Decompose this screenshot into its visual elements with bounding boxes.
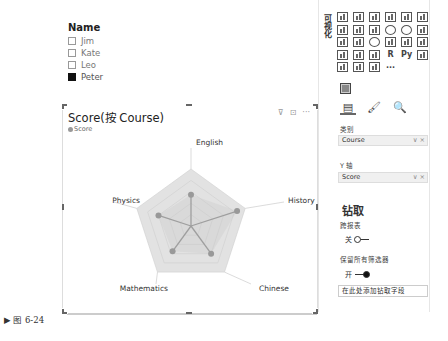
radar-chart-visual[interactable]: Score(按 Course) Score ⊽ ⊡ ··· EnglishHis… [62,104,318,314]
checkbox-icon[interactable] [68,61,76,69]
category-field-well[interactable]: Course ∨ × [338,135,428,146]
slicer-item-label: Peter [81,72,103,82]
radar-icon[interactable] [369,62,380,72]
format-tab[interactable]: 🖌 [366,101,382,115]
y-axis-field-value: Score [342,173,360,182]
svg-text:Chinese: Chinese [259,284,289,293]
scatter-icon[interactable] [369,25,380,35]
slicer-title: Name [68,22,168,33]
slicer-icon[interactable] [337,50,348,60]
map-icon[interactable] [337,37,348,47]
filled-map-icon[interactable] [353,37,364,47]
treemap-icon[interactable] [417,25,428,35]
category-field-value: Course [342,136,365,145]
pie-icon[interactable] [385,25,396,35]
slicer-item-jim[interactable]: Jim [68,35,168,47]
multi-row-card-icon[interactable] [401,37,412,47]
name-slicer: Name Jim Kate Leo Peter [68,22,168,83]
funnel-icon[interactable] [353,25,364,35]
gauge-icon[interactable] [369,37,380,47]
smart-narrative-icon[interactable] [353,62,364,72]
cross-report-label: 跨报表 [340,220,361,230]
divider [67,314,317,315]
stacked-bar-icon[interactable] [385,12,396,22]
category-label: 类别 [340,124,354,134]
svg-text:English: English [196,138,223,147]
toggle-knob-icon [354,236,361,243]
field-controls-icon[interactable]: ∨ × [413,136,427,145]
checkbox-checked-icon[interactable] [68,73,76,81]
python-visual-icon[interactable]: Py [401,50,412,60]
visualizations-pane: 可视化 RPy··· [318,0,430,312]
slicer-item-label: Jim [81,36,94,46]
area-chart-icon[interactable] [353,12,364,22]
cross-report-toggle[interactable]: 关 [345,234,369,244]
svg-text:Physics: Physics [112,196,140,205]
qa-icon[interactable] [337,62,348,72]
card-icon[interactable] [385,37,396,47]
pane-title: 可视化 [322,14,331,38]
checkbox-icon[interactable] [68,37,76,45]
radar-visual-type-icon[interactable] [340,83,351,94]
toggle-track[interactable] [355,239,369,240]
clustered-bar-icon[interactable] [401,12,412,22]
toggle-state: 关 [345,234,352,244]
checkbox-icon[interactable] [68,49,76,57]
line-chart-icon[interactable] [337,12,348,22]
matrix-icon[interactable] [369,50,380,60]
figure-caption: ▶ 图 6-24 [4,313,44,325]
toggle-knob-icon [363,271,370,278]
slicer-item-leo[interactable]: Leo [68,59,168,71]
y-axis-field-well[interactable]: Score ∨ × [338,172,428,183]
toggle-state: 开 [345,269,352,279]
stacked-area-icon[interactable] [369,12,380,22]
keep-filters-toggle[interactable]: 开 [345,269,369,279]
analytics-tab[interactable]: 🔍 [392,101,408,115]
kpi-icon[interactable] [417,37,428,47]
slicer-item-label: Leo [81,60,96,70]
r-visual-icon[interactable]: R [385,50,396,60]
slicer-item-kate[interactable]: Kate [68,47,168,59]
toggle-track[interactable] [355,274,369,275]
waterfall-icon[interactable] [337,25,348,35]
visual-type-gallery: RPy··· [337,12,431,75]
svg-text:Mathematics: Mathematics [120,284,168,293]
ribbon-icon[interactable] [417,12,428,22]
fields-tab[interactable]: ▤ [340,101,356,115]
radar-plot: EnglishHistoryChineseMathematicsPhysics [62,104,318,314]
svg-text:History: History [288,196,315,205]
table-icon[interactable] [353,50,364,60]
keep-filters-label: 保留所有筛选器 [340,254,389,264]
pane-tabs: ▤ 🖌 🔍 [340,101,408,115]
slicer-item-label: Kate [81,48,100,58]
more-icon[interactable]: ··· [385,62,396,72]
key-influencers-icon[interactable] [417,50,428,60]
slicer-item-peter[interactable]: Peter [68,71,168,83]
drillthrough-drop-zone[interactable]: 在此处添加钻取字段 [338,285,428,297]
donut-icon[interactable] [401,25,412,35]
y-axis-label: Y 轴 [340,160,353,170]
field-controls-icon[interactable]: ∨ × [413,173,427,182]
drillthrough-title: 钻取 [342,202,364,218]
